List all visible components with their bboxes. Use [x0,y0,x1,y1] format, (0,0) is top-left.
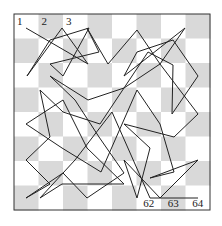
square-label: 64 [192,197,204,209]
board-square [14,161,39,186]
board-square [112,186,137,211]
square-label: 62 [143,197,154,209]
board-square [39,186,64,211]
board-square [14,63,39,88]
board-square [161,161,186,186]
board-square [137,63,162,88]
board-square [88,137,113,162]
board-square [88,161,113,186]
board-square [186,14,211,39]
board-square [63,186,88,211]
board-square [88,63,113,88]
board-square [14,88,39,113]
square-label: 2 [42,15,48,27]
board-square [14,137,39,162]
board-square [186,88,211,113]
board-square [112,161,137,186]
board-square [39,63,64,88]
board-square [161,63,186,88]
board-square [186,39,211,64]
board-square [112,14,137,39]
board-square [88,88,113,113]
board-square [161,88,186,113]
board-square [137,137,162,162]
board-square [39,161,64,186]
board-square [161,14,186,39]
board-square [186,137,211,162]
board-square [63,161,88,186]
square-label: 63 [168,197,180,209]
board-square [186,161,211,186]
board-square [63,137,88,162]
board-square [186,112,211,137]
board-square [39,112,64,137]
board-square [137,161,162,186]
board-square [63,63,88,88]
board-square [161,112,186,137]
square-label: 3 [66,15,72,27]
knights-tour-board: 123626364 [0,0,222,226]
board-square [14,39,39,64]
board-square [137,88,162,113]
square-label: 1 [17,15,23,27]
